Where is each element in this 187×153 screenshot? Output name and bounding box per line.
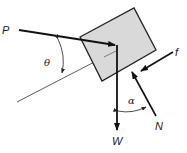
incline-line xyxy=(17,57,104,102)
free-body-diagram: P W N f θ α xyxy=(0,0,187,153)
label-alpha: α xyxy=(128,95,135,106)
label-n: N xyxy=(155,120,163,132)
label-w: W xyxy=(112,135,124,147)
label-f: f xyxy=(175,46,179,58)
label-p: P xyxy=(2,24,10,36)
theta-arc xyxy=(58,39,63,73)
block xyxy=(80,8,156,81)
alpha-arc xyxy=(118,107,146,112)
label-theta: θ xyxy=(44,57,50,68)
force-n-arrow xyxy=(132,72,156,116)
